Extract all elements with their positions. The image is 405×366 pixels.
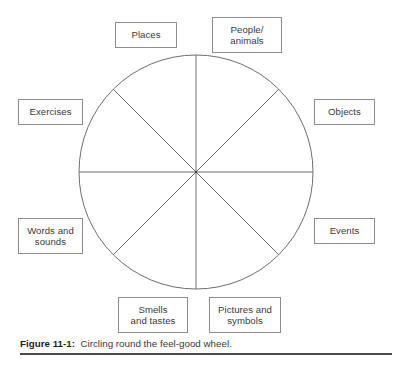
- wheel-label-events: Events: [314, 218, 375, 244]
- wheel-label-words-and-sounds: Words and sounds: [18, 218, 83, 254]
- caption-divider-rule: [20, 353, 392, 355]
- wheel-label-exercises: Exercises: [18, 99, 83, 125]
- wheel-center-point: [195, 171, 197, 173]
- wheel-label-smells-and-tastes: Smells and tastes: [118, 297, 188, 333]
- wheel-label-people-animals: People/ animals: [212, 17, 282, 53]
- figure-caption-text: Circling round the feel-good wheel.: [80, 338, 231, 349]
- wheel-label-pictures-and-symbols: Pictures and symbols: [209, 297, 281, 333]
- figure-container: Places People/ animals Objects Events Pi…: [0, 0, 405, 366]
- wheel-label-objects: Objects: [314, 99, 375, 125]
- figure-caption-label: Figure 11-1:: [20, 338, 75, 349]
- figure-caption: Figure 11-1: Circling round the feel-goo…: [20, 337, 395, 350]
- feel-good-wheel-diagram: [0, 0, 405, 340]
- wheel-label-places: Places: [115, 22, 177, 48]
